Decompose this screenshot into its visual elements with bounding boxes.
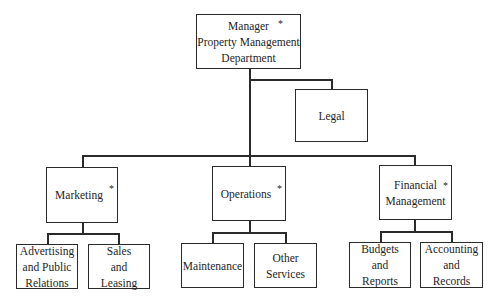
operations-marker: * [277,183,282,194]
advertising-line3: Relations [25,275,68,291]
connector-operations-v [249,155,251,166]
budgets-line3: Reports [362,273,398,289]
budgets-line1: Budgets [361,241,399,257]
manager-box: Manager Property Management Department [196,14,301,69]
other-line1: Other [272,250,298,266]
marketing-label: Marketing [55,187,103,203]
legal-label: Legal [318,108,344,124]
operations-label: Operations [221,186,271,202]
financial-label-line2: Management [385,193,445,209]
connector-operations-children [212,232,286,234]
maintenance-line1: Maintenance [183,258,242,274]
other-line2: Services [266,266,305,282]
sales-line3: Leasing [101,275,137,291]
manager-label-line2: Property Management [197,34,300,50]
accounting-line2: and [443,257,460,273]
connector-maintenance-v [212,232,214,243]
connector-financial-down [414,219,416,231]
advertising-line1: Advertising [20,243,74,259]
marketing-marker: * [109,183,114,194]
manager-label: Manager [228,18,269,34]
accounting-line3: Records [433,273,471,289]
financial-management-box: Financial Management [379,165,452,220]
other-services-box: Other Services [254,243,317,288]
manager-label-line3: Department [221,50,275,66]
budgets-reports-box: Budgets and Reports [349,242,411,288]
operations-box: Operations [212,166,286,221]
connector-marketing-children [47,233,119,235]
connector-legal-v [331,79,333,89]
marketing-box: Marketing [46,167,118,223]
connector-legal-h [249,79,332,81]
advertising-line2: and Public [23,259,72,275]
sales-leasing-box: Sales and Leasing [88,244,150,289]
maintenance-box: Maintenance [181,243,244,288]
financial-marker: * [443,180,448,191]
sales-line1: Sales [107,243,131,259]
accounting-records-box: Accounting and Records [420,242,483,288]
connector-financial-v [414,155,416,165]
sales-line2: and [111,259,128,275]
connector-marketing-down [82,222,84,233]
advertising-box: Advertising and Public Relations [16,244,78,289]
financial-label: Financial [394,177,437,193]
connector-root-down [249,68,251,155]
budgets-line2: and [372,257,389,273]
connector-financial-children [380,231,452,233]
connector-other-v [285,232,287,243]
manager-marker: * [278,18,283,29]
connector-marketing-v [82,155,84,167]
legal-box: Legal [295,89,368,142]
accounting-line1: Accounting [425,241,479,257]
connector-operations-down [249,220,251,232]
